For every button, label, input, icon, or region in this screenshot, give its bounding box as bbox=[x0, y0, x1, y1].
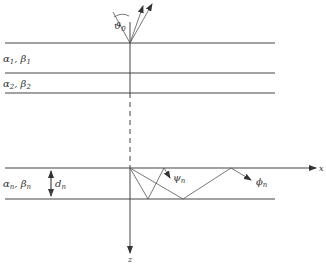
thickness-label: dn bbox=[55, 178, 66, 191]
incidence-angle-label: ϑ0 bbox=[114, 20, 126, 33]
layer-n-label: αn, βn bbox=[3, 178, 31, 191]
psi-ray-path bbox=[130, 168, 164, 199]
layer-2-label: α2, β2 bbox=[3, 78, 31, 91]
layer-1-label: α1, β1 bbox=[3, 53, 31, 66]
angle-arc bbox=[114, 14, 129, 17]
psi-label: ψn bbox=[173, 172, 186, 185]
z-axis-label: z bbox=[127, 255, 133, 264]
ray-arrow-1 bbox=[130, 6, 143, 43]
psi-ray-arrow bbox=[164, 168, 170, 178]
phi-label: ϕn bbox=[256, 176, 268, 189]
ray-arrow-2 bbox=[130, 4, 152, 43]
layered-medium-diagram: ϑ0 α1, β1 α2, β2 αn, βn dn ψn ϕn x z bbox=[0, 0, 326, 264]
x-axis-label: x bbox=[319, 164, 324, 173]
phi-ray-arrow bbox=[231, 168, 251, 180]
